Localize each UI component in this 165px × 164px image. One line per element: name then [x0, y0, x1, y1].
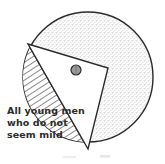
smudge-mark-left: [63, 156, 76, 158]
region-label-line-3: seem mild: [7, 129, 63, 140]
scan-artifacts: [63, 155, 110, 158]
region-label-line-2: who do not: [7, 117, 68, 128]
marker-dot: [71, 65, 81, 75]
figure-root: All young men who do not seem mild: [0, 0, 165, 164]
smudge-mark-right: [100, 155, 110, 158]
region-label-line-1: All young men: [7, 105, 85, 116]
euler-diagram: All young men who do not seem mild: [0, 0, 165, 164]
